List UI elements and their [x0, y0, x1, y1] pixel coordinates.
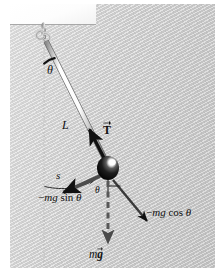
- tension-vector-symbol-wrap: T: [103, 124, 111, 136]
- pivot-angle-label: θ: [47, 64, 53, 76]
- pendulum-bob: [97, 156, 119, 180]
- tangential-mg-text: mg: [44, 191, 57, 203]
- rod-length-label: L: [62, 119, 69, 131]
- weight-gravity-symbol-wrap: g: [97, 249, 103, 261]
- arc-length-label: s: [56, 170, 60, 181]
- radial-mg-text: mg: [152, 206, 165, 218]
- bob-angle-label: θ: [95, 186, 100, 196]
- tangential-function-text: sin: [60, 191, 73, 203]
- tension-symbol-text: T: [103, 123, 111, 137]
- radial-function-text: cos: [168, 206, 183, 218]
- pendulum-vector-art: [0, 0, 224, 280]
- weight-vector-label: m g: [89, 249, 103, 261]
- radial-theta-text: θ: [186, 206, 191, 218]
- pendulum-figure: θ L T s θ −mg sin θ −mg cos θ m: [0, 0, 224, 280]
- tangential-theta-text: θ: [76, 191, 81, 203]
- radial-force-label: −mg cos θ: [146, 207, 191, 218]
- tangential-force-label: −mg sin θ: [38, 192, 81, 203]
- weight-gravity-text: g: [97, 248, 103, 260]
- tension-vector-label: T: [103, 124, 111, 136]
